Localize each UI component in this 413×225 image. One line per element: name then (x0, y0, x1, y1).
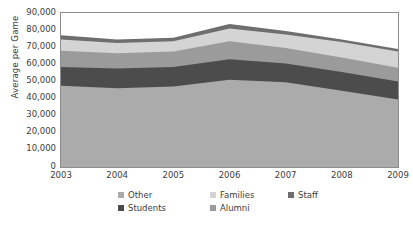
y-axis-tick-labels: 010,00020,00030,00040,00050,00060,00070,… (8, 0, 56, 180)
legend-row-1: Other Families Staff (118, 189, 358, 200)
stacked-area-chart: Average per Game 010,00020,00030,00040,0… (0, 0, 413, 225)
legend-row-2: Students Alumni (118, 202, 358, 213)
x-tick-label: 2004 (97, 170, 137, 181)
y-tick-label: 50,000 (8, 76, 56, 85)
legend-item-other[interactable]: Other (118, 189, 152, 200)
y-tick-label: 90,000 (8, 8, 56, 17)
x-tick-label: 2006 (210, 170, 250, 181)
legend-swatch-other-icon (118, 192, 124, 198)
area-series-other (61, 80, 398, 167)
legend-label-families: Families (220, 190, 254, 200)
plot-area (60, 12, 399, 168)
y-tick-label: 70,000 (8, 42, 56, 51)
x-tick-label: 2008 (322, 170, 362, 181)
x-tick-label: 2007 (266, 170, 306, 181)
legend-swatch-students-icon (118, 205, 124, 211)
x-tick-label: 2003 (41, 170, 81, 181)
x-tick-label: 2009 (378, 170, 413, 181)
legend-swatch-alumni-icon (210, 205, 216, 211)
legend-label-other: Other (128, 190, 152, 200)
legend-item-students[interactable]: Students (118, 202, 166, 213)
legend-item-alumni[interactable]: Alumni (210, 202, 250, 213)
y-tick-label: 10,000 (8, 144, 56, 153)
y-tick-label: 40,000 (8, 93, 56, 102)
legend-swatch-families-icon (210, 192, 216, 198)
legend-item-staff[interactable]: Staff (288, 189, 318, 200)
legend-swatch-staff-icon (288, 192, 294, 198)
y-tick-label: 60,000 (8, 59, 56, 68)
x-tick-label: 2005 (153, 170, 193, 181)
plot-svg (61, 13, 398, 167)
chart-legend: Other Families Staff Students Alumni (118, 189, 358, 215)
x-axis-tick-labels: 2003200420052006200720082009 (0, 170, 413, 184)
y-tick-label: 30,000 (8, 110, 56, 119)
legend-label-alumni: Alumni (220, 203, 250, 213)
legend-item-families[interactable]: Families (210, 189, 254, 200)
y-tick-label: 20,000 (8, 127, 56, 136)
legend-label-students: Students (128, 203, 166, 213)
legend-label-staff: Staff (298, 190, 318, 200)
y-tick-label: 80,000 (8, 25, 56, 34)
